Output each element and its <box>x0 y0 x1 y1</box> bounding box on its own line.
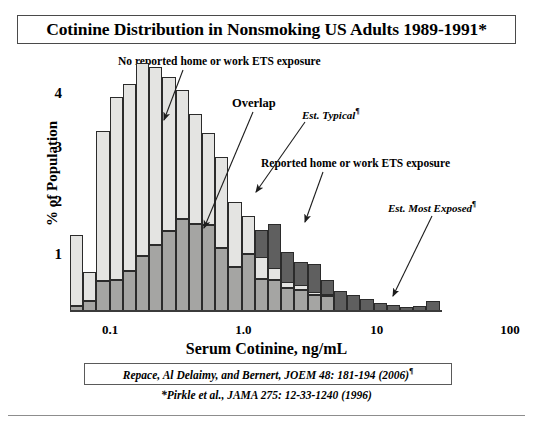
bar-segment-no-exposure <box>149 67 162 245</box>
bar-segment-reported <box>347 295 360 311</box>
bar-segment-overlap <box>136 256 149 311</box>
x-axis-tick: 0.1 <box>90 322 130 338</box>
bar-segment-no-exposure <box>162 77 175 232</box>
x-axis-line <box>70 310 442 312</box>
bar-segment-overlap <box>281 288 294 311</box>
histogram-bar <box>281 96 294 311</box>
histogram-bar <box>149 96 162 311</box>
histogram-bar <box>413 96 426 311</box>
histogram-bar <box>360 96 373 311</box>
x-axis-tick: 1.0 <box>223 322 263 338</box>
x-axis-tick: 100 <box>490 322 530 338</box>
histogram-bar <box>70 96 83 311</box>
bar-segment-no-exposure <box>308 292 321 295</box>
histogram-bar <box>83 96 96 311</box>
histogram-bar <box>294 96 307 311</box>
bar-segment-no-exposure <box>321 294 334 296</box>
histogram-bar <box>228 96 241 311</box>
histogram-bar <box>176 96 189 311</box>
y-axis-label: % of Population <box>44 121 61 226</box>
histogram-bar <box>308 96 321 311</box>
histogram-bar <box>255 96 268 311</box>
histogram-bar <box>242 96 255 311</box>
bar-segment-no-exposure <box>136 63 149 257</box>
citation-secondary: *Pirkle et al., JAMA 275: 12-33-1240 (19… <box>0 389 533 401</box>
histogram-bar <box>321 96 334 311</box>
bar-segment-overlap <box>268 280 281 311</box>
chart-title-box: Cotinine Distribution in Nonsmoking US A… <box>17 15 516 44</box>
histogram-bar <box>162 96 175 311</box>
bar-segment-overlap <box>123 271 136 311</box>
bar-segment-no-exposure <box>96 131 109 282</box>
bar-segment-no-exposure <box>202 133 215 225</box>
histogram-bar <box>426 96 439 311</box>
page-title: Cotinine Distribution in Nonsmoking US A… <box>46 19 487 40</box>
y-axis-tick: 1 <box>40 246 62 263</box>
bar-segment-no-exposure <box>176 90 189 219</box>
bar-segment-no-exposure <box>281 282 294 288</box>
bar-segment-overlap <box>96 281 109 311</box>
bar-segment-overlap <box>215 248 228 311</box>
bar-segment-no-exposure <box>228 202 241 267</box>
histogram-bar <box>387 96 400 311</box>
histogram-bar <box>110 96 123 311</box>
histogram-bar <box>215 96 228 311</box>
histogram-bar <box>374 96 387 311</box>
histogram-bar <box>400 96 413 311</box>
bar-segment-overlap <box>228 267 241 311</box>
y-axis-tick: 4 <box>40 85 62 102</box>
bar-segment-no-exposure <box>242 216 255 254</box>
bar-segment-no-exposure <box>294 285 307 289</box>
y-axis-tick: 2 <box>40 193 62 210</box>
citation-primary-mark: ¶ <box>409 367 413 376</box>
bar-segment-no-exposure <box>215 157 228 247</box>
histogram-bar <box>347 96 360 311</box>
histogram-bar <box>334 96 347 311</box>
footer-divider <box>8 415 525 416</box>
bar-segment-overlap <box>162 231 175 311</box>
histogram-bar <box>136 96 149 311</box>
plot-area: % of Population 1234 <box>70 96 440 311</box>
citation-primary: Repace, Al Delaimy, and Bernert, JOEM 48… <box>123 367 413 381</box>
bar-segment-no-exposure <box>255 257 268 279</box>
bar-segment-overlap <box>149 245 162 311</box>
bar-segment-overlap <box>110 280 123 311</box>
bar-segment-no-exposure <box>110 97 123 281</box>
x-axis-tick: 10 <box>357 322 397 338</box>
bar-segment-no-exposure <box>123 84 136 271</box>
citation-box: Repace, Al Delaimy, and Bernert, JOEM 48… <box>84 363 452 385</box>
bar-segment-overlap <box>255 279 268 311</box>
histogram-bar <box>202 96 215 311</box>
annotation-est-most-exposed-mark: ¶ <box>472 200 476 209</box>
bar-segment-no-exposure <box>70 235 83 306</box>
bar-segment-overlap <box>242 254 255 312</box>
bar-segment-no-exposure <box>268 268 281 280</box>
bar-segment-overlap <box>321 296 334 311</box>
bar-segment-overlap <box>202 225 215 311</box>
histogram-bar <box>123 96 136 311</box>
y-axis-tick: 3 <box>40 139 62 156</box>
histogram-bar <box>189 96 202 311</box>
bar-segment-overlap <box>308 295 321 311</box>
bar-segment-no-exposure <box>189 114 202 224</box>
histogram-bar <box>268 96 281 311</box>
bar-segment-no-exposure <box>83 272 96 302</box>
bar-segment-overlap <box>176 219 189 311</box>
bar-segment-reported <box>334 291 347 311</box>
bar-segment-overlap <box>294 290 307 312</box>
x-axis-label: Serum Cotinine, ng/mL <box>0 340 533 358</box>
citation-primary-text: Repace, Al Delaimy, and Bernert, JOEM 48… <box>123 369 409 381</box>
histogram-bar <box>96 96 109 311</box>
bar-segment-overlap <box>189 224 202 311</box>
